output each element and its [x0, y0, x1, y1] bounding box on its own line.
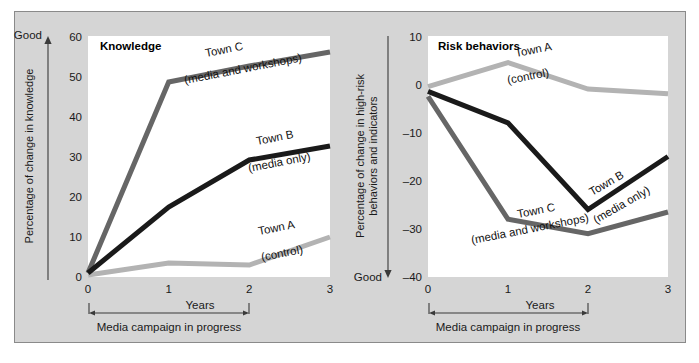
right-y-tick-minus30: –30 — [403, 223, 422, 235]
right-bracket-left-arrow-icon — [429, 310, 435, 315]
right-panel-title: Risk behaviors — [438, 40, 520, 52]
left-y-axis-title: Percentage of change in knowledge — [23, 69, 35, 244]
right-good-label: Good — [354, 271, 382, 283]
left-x-tick-2: 2 — [246, 283, 252, 295]
left-x-tick-0: 0 — [85, 283, 91, 295]
left-y-tick-50: 50 — [69, 71, 82, 83]
left-x-tick-3: 3 — [327, 283, 333, 295]
left-x-tick-1: 1 — [165, 283, 171, 295]
left-y-tick-0: 0 — [76, 271, 82, 283]
left-campaign-note: Media campaign in progress — [97, 321, 242, 333]
left-good-label: Good — [14, 29, 42, 41]
left-bracket-left-arrow-icon — [89, 310, 95, 315]
right-chart-group: Good Percentage of change in high-risk b… — [354, 31, 671, 333]
right-y-tick-minus10: –10 — [403, 127, 422, 139]
right-x-axis-title: Years — [526, 299, 555, 311]
right-x-tick-1: 1 — [505, 283, 511, 295]
right-y-axis-title-line1: Percentage of change in high-risk — [354, 74, 366, 238]
left-x-axis-title: Years — [186, 299, 215, 311]
right-y-tick-minus20: –20 — [403, 175, 422, 187]
left-panel-title: Knowledge — [100, 40, 161, 52]
right-bracket-right-arrow-icon — [582, 310, 588, 315]
left-y-tick-30: 30 — [69, 151, 82, 163]
left-y-tick-10: 10 — [69, 231, 82, 243]
left-y-tick-40: 40 — [69, 111, 82, 123]
right-y-tick-minus40: –40 — [403, 271, 422, 283]
right-x-tick-0: 0 — [425, 283, 431, 295]
left-good-arrow-icon — [44, 36, 51, 44]
left-y-tick-60: 60 — [69, 31, 82, 43]
right-x-tick-2: 2 — [585, 283, 591, 295]
figure-root: Good Percentage of change in knowledge 6… — [0, 0, 699, 363]
right-x-tick-3: 3 — [665, 283, 671, 295]
charts-svg: Good Percentage of change in knowledge 6… — [0, 0, 699, 363]
right-campaign-note: Media campaign in progress — [436, 321, 581, 333]
right-y-tick-10: 10 — [409, 31, 422, 43]
left-chart-group: Good Percentage of change in knowledge 6… — [14, 29, 333, 333]
right-y-axis-title-line2: behaviors and indicators — [367, 96, 379, 216]
right-good-arrow-icon — [384, 270, 391, 278]
left-bracket-right-arrow-icon — [243, 310, 249, 315]
left-y-tick-20: 20 — [69, 191, 82, 203]
right-y-tick-0: 0 — [416, 79, 422, 91]
